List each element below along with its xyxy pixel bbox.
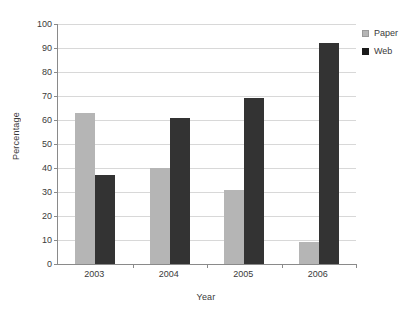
bar-paper-2004 — [150, 168, 170, 264]
y-axis-title: Percentage — [8, 0, 24, 272]
bar-paper-2006 — [299, 242, 319, 264]
y-axis-tick — [54, 72, 58, 73]
y-axis-tick — [54, 264, 58, 265]
x-axis-tick-label-2004: 2004 — [159, 269, 179, 279]
gridline — [58, 120, 356, 121]
plot-area: 0102030405060708090100 — [57, 24, 356, 265]
gridline — [58, 96, 356, 97]
y-axis-tick-label: 40 — [42, 163, 52, 173]
y-axis-tick — [54, 240, 58, 241]
y-axis-tick-label: 10 — [42, 235, 52, 245]
x-axis-tick-label-2006: 2006 — [308, 269, 328, 279]
y-axis-tick — [54, 192, 58, 193]
y-axis-tick — [54, 144, 58, 145]
bar-paper-2003 — [75, 113, 95, 264]
paper-swatch-icon — [362, 30, 369, 37]
y-axis-tick-label: 70 — [42, 91, 52, 101]
y-axis-tick — [54, 168, 58, 169]
y-axis-tick-label: 60 — [42, 115, 52, 125]
bar-web-2005 — [244, 98, 264, 264]
gridline — [58, 144, 356, 145]
y-axis-tick — [54, 120, 58, 121]
bar-web-2004 — [170, 118, 190, 264]
y-axis-tick-label: 20 — [42, 211, 52, 221]
x-axis-tick-label-2003: 2003 — [84, 269, 104, 279]
x-axis-tick-label-2005: 2005 — [233, 269, 253, 279]
bar-web-2006 — [319, 43, 339, 264]
bar-paper-2005 — [224, 190, 244, 264]
x-axis-tick — [207, 264, 208, 268]
gridline — [58, 24, 356, 25]
y-axis-tick-label: 100 — [37, 19, 52, 29]
y-axis-tick — [54, 24, 58, 25]
y-axis-tick-label: 0 — [47, 259, 52, 269]
chart-legend: PaperWeb — [362, 26, 398, 62]
x-axis-tick — [356, 264, 357, 268]
y-axis-tick — [54, 48, 58, 49]
gridline — [58, 48, 356, 49]
legend-label-paper: Paper — [374, 28, 398, 38]
gridline — [58, 72, 356, 73]
y-axis-tick-label: 50 — [42, 139, 52, 149]
y-axis-tick — [54, 96, 58, 97]
legend-item-paper[interactable]: Paper — [362, 26, 398, 40]
legend-label-web: Web — [374, 46, 392, 56]
x-axis-title: Year — [57, 292, 355, 302]
gridline — [58, 168, 356, 169]
legend-item-web[interactable]: Web — [362, 44, 398, 58]
x-axis-tick — [282, 264, 283, 268]
bar-web-2003 — [95, 175, 115, 264]
bar-chart-figure: Percentage 0102030405060708090100 Year P… — [0, 0, 406, 317]
y-axis-tick-label: 30 — [42, 187, 52, 197]
y-axis-tick-label: 90 — [42, 43, 52, 53]
y-axis-title-text: Percentage — [11, 112, 21, 160]
x-axis-tick — [133, 264, 134, 268]
web-swatch-icon — [362, 48, 369, 55]
y-axis-tick — [54, 216, 58, 217]
y-axis-tick-label: 80 — [42, 67, 52, 77]
